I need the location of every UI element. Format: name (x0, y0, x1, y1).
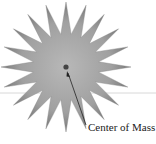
center-of-mass-label: Center of Mass (88, 121, 155, 133)
center-of-mass-dot (63, 64, 68, 69)
